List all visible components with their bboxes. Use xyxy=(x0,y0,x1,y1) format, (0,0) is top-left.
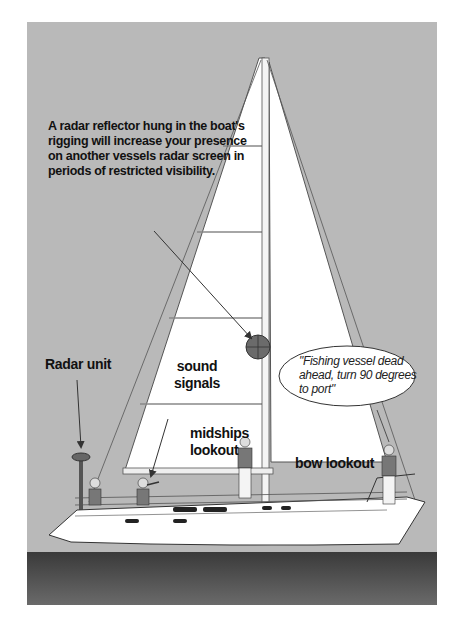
speech-bubble-text: "Fishing vessel dead ahead, turn 90 degr… xyxy=(299,354,417,396)
radar-unit-label: Radar unit xyxy=(45,356,111,372)
midships-line2: lookout xyxy=(190,442,249,459)
sea xyxy=(27,552,437,605)
sound-signals-label: sound signals xyxy=(167,358,227,392)
midships-line1: midships xyxy=(190,425,249,442)
crew-helm xyxy=(89,478,101,505)
sailboat-illustration: A radar reflector hung in the boat's rig… xyxy=(27,22,437,605)
crew-sound-signals xyxy=(137,478,159,505)
radar-unit xyxy=(72,453,90,461)
sound-signals-line1: sound xyxy=(167,358,227,375)
sailboat-drawing xyxy=(27,22,437,605)
sound-signals-line2: signals xyxy=(167,375,227,392)
bow-lookout-label: bow lookout xyxy=(295,455,374,471)
midships-lookout-label: midships lookout xyxy=(190,425,249,459)
radar-reflector-note: A radar reflector hung in the boat's rig… xyxy=(48,119,248,179)
mast xyxy=(262,58,269,518)
